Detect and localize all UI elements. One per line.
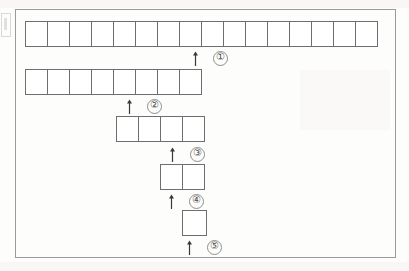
array-cell <box>267 21 290 47</box>
step-marker-4: ④ <box>168 193 204 209</box>
array-cell <box>179 21 202 47</box>
page-edge-mark-icon <box>1 13 11 37</box>
array-cell <box>25 69 48 95</box>
step-marker-3: ③ <box>169 146 205 162</box>
array-cell <box>182 210 207 236</box>
array-cell <box>91 21 114 47</box>
array-cell <box>160 116 183 142</box>
array-cell <box>245 21 268 47</box>
array-cell <box>289 21 312 47</box>
step-marker-1: ① <box>192 50 228 66</box>
array-cell <box>182 164 205 190</box>
array-row-1 <box>25 21 378 47</box>
array-cell <box>25 21 48 47</box>
array-cell <box>179 69 202 95</box>
array-cell <box>157 69 180 95</box>
array-cell <box>69 21 92 47</box>
array-cell <box>135 21 158 47</box>
up-arrow-icon <box>186 240 193 255</box>
step-marker-5: ⑤ <box>186 239 222 255</box>
array-cell <box>223 21 246 47</box>
array-cell <box>91 69 114 95</box>
array-cell <box>311 21 334 47</box>
array-row-4 <box>160 164 205 190</box>
array-cell <box>135 69 158 95</box>
array-cell <box>157 21 180 47</box>
step-number-badge: ⑤ <box>207 240 222 255</box>
array-cell <box>113 69 136 95</box>
up-arrow-icon <box>126 99 133 114</box>
step-number-badge: ① <box>213 51 228 66</box>
array-cell <box>138 116 161 142</box>
step-number-badge: ④ <box>189 194 204 209</box>
array-cell <box>113 21 136 47</box>
array-cell <box>182 116 205 142</box>
up-arrow-icon <box>192 51 199 66</box>
up-arrow-icon <box>168 194 175 209</box>
array-row-5 <box>182 210 207 236</box>
array-cell <box>47 69 70 95</box>
step-number-badge: ③ <box>190 147 205 162</box>
up-arrow-icon <box>169 147 176 162</box>
array-row-3 <box>116 116 205 142</box>
array-cell <box>69 69 92 95</box>
array-cell <box>116 116 139 142</box>
paper-blotch <box>0 0 409 8</box>
scanned-page: ① ② ③ <box>0 0 409 271</box>
step-marker-2: ② <box>126 98 162 114</box>
paper-blotch <box>0 262 409 271</box>
array-cell <box>160 164 183 190</box>
step-number-badge: ② <box>147 99 162 114</box>
array-row-2 <box>25 69 202 95</box>
array-cell <box>47 21 70 47</box>
array-cell <box>355 21 378 47</box>
array-cell <box>201 21 224 47</box>
array-cell <box>333 21 356 47</box>
